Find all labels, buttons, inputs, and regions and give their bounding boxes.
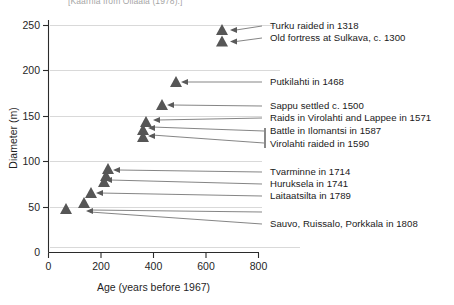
- x-tick-0: 0: [46, 260, 52, 272]
- data-point-marker: [102, 163, 114, 174]
- annotation-label-putkilahti: Putkilahti in 1468: [270, 77, 344, 87]
- chart-figure: [Kaarnia from Ollaala (1978).]: [0, 0, 454, 305]
- y-tick-200: 200: [22, 64, 40, 76]
- y-tick-0: 0: [34, 246, 40, 258]
- x-tick-800: 800: [250, 260, 268, 272]
- data-point-marker: [60, 203, 72, 214]
- y-tick-labels: 250 200 150 100 50 0: [22, 19, 40, 258]
- annotation-label-laitaatsilta: Laitaatsilta in 1789: [270, 191, 351, 201]
- x-tick-600: 600: [197, 260, 215, 272]
- data-point-marker: [140, 116, 152, 127]
- y-tick-100: 100: [22, 155, 40, 167]
- y-tick-150: 150: [22, 110, 40, 122]
- annotation-label-huruksela: Huruksela in 1741: [270, 179, 348, 189]
- annotation-label-sauvo: Sauvo, Ruissalo, Porkkala in 1808: [270, 219, 418, 229]
- annotation-label-turku: Turku raided in 1318: [270, 21, 359, 31]
- x-axis-title: Age (years before 1967): [97, 281, 210, 293]
- annotation-label-sulkava: Old fortress at Sulkava, c. 1300: [270, 33, 405, 43]
- annotation-label-raids: Raids in Virolahti and Lappee in 1571: [270, 113, 431, 123]
- annotation-label-tvarminne: Tvarminne in 1714: [270, 167, 350, 177]
- data-point-marker: [156, 99, 168, 110]
- y-axis-ticks: [43, 26, 49, 208]
- annotation-label-sappu: Sappu settled c. 1500: [270, 101, 364, 111]
- x-axis-ticks: [49, 253, 259, 259]
- x-tick-labels: 0 200 400 600 800: [46, 260, 268, 272]
- data-point-marker: [78, 197, 90, 208]
- annotation-label-virolahti: Virolahti raided in 1590: [270, 139, 369, 149]
- leader-lines: [90, 26, 264, 224]
- annotation-label-ilomantsi: Battle in Ilomantsi in 1587: [270, 126, 381, 136]
- x-tick-400: 400: [145, 260, 163, 272]
- y-tick-250: 250: [22, 19, 40, 31]
- scatter-plot-canvas: 250 200 150 100 50 0 0 200 400 600 800 A…: [0, 0, 454, 305]
- y-axis-title: Diameter (m): [7, 107, 19, 168]
- x-tick-200: 200: [92, 260, 110, 272]
- data-point-marker: [216, 36, 228, 47]
- data-point-marker: [170, 76, 182, 87]
- y-tick-50: 50: [28, 201, 40, 213]
- data-point-marker: [85, 187, 97, 198]
